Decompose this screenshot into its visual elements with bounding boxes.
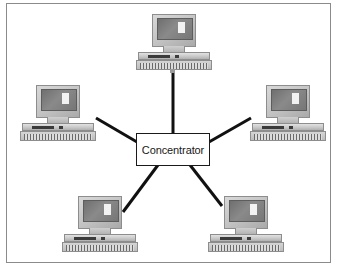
- floppy-drive-slot: [262, 126, 284, 129]
- workstation-left[interactable]: [20, 85, 96, 141]
- monitor-screen: [271, 89, 307, 111]
- monitor-icon: [224, 196, 268, 229]
- system-unit-icon: [210, 234, 282, 242]
- keyboard-keys: [66, 245, 134, 251]
- monitor-icon: [152, 14, 196, 47]
- system-unit-icon: [22, 123, 94, 131]
- power-led-icon: [175, 55, 179, 58]
- system-unit-icon: [252, 123, 324, 131]
- floppy-drive-slot: [74, 237, 96, 240]
- power-led-icon: [247, 237, 251, 240]
- keyboard-keys: [254, 134, 322, 140]
- screen-glare: [250, 204, 257, 215]
- system-unit-icon: [64, 234, 136, 242]
- keyboard-keys: [212, 245, 280, 251]
- monitor-screen: [83, 200, 119, 222]
- keyboard-icon: [62, 242, 138, 252]
- monitor-screen: [229, 200, 265, 222]
- floppy-drive-slot: [220, 237, 242, 240]
- floppy-drive-slot: [32, 126, 54, 129]
- monitor-icon: [78, 196, 122, 229]
- keyboard-icon: [208, 242, 284, 252]
- power-led-icon: [101, 237, 105, 240]
- monitor-screen: [157, 18, 193, 40]
- keyboard-icon: [250, 131, 326, 141]
- workstation-bottom-right[interactable]: [208, 196, 284, 252]
- power-led-icon: [289, 126, 293, 129]
- screen-glare: [104, 204, 111, 215]
- link-hub-to-pc-left: [96, 118, 137, 142]
- cable-stub: [170, 69, 175, 73]
- monitor-screen: [41, 89, 77, 111]
- workstation-right[interactable]: [250, 85, 326, 141]
- system-unit-icon: [138, 52, 210, 60]
- diagram-canvas: Concentrator: [0, 0, 340, 274]
- concentrator-node[interactable]: Concentrator: [136, 133, 210, 166]
- floppy-drive-slot: [148, 55, 170, 58]
- link-hub-to-pc-right: [209, 118, 251, 142]
- keyboard-keys: [24, 134, 92, 140]
- concentrator-label: Concentrator: [142, 144, 204, 156]
- screen-glare: [292, 93, 299, 104]
- keyboard-icon: [20, 131, 96, 141]
- monitor-icon: [266, 85, 310, 118]
- screen-glare: [178, 22, 185, 33]
- power-led-icon: [59, 126, 63, 129]
- workstation-bottom-left[interactable]: [62, 196, 138, 252]
- screen-glare: [62, 93, 69, 104]
- monitor-icon: [36, 85, 80, 118]
- workstation-top[interactable]: [136, 14, 212, 70]
